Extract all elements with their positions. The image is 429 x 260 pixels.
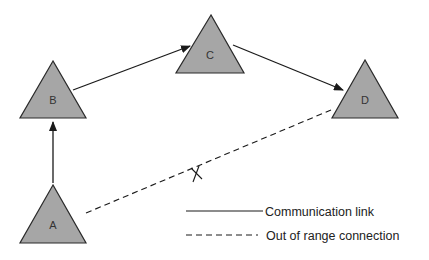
edge-c-to-d [233, 45, 343, 90]
triangle-node-icon [176, 15, 244, 73]
node-label: A [49, 219, 57, 231]
legend-item-out-of-range: Out of range connection [186, 229, 399, 243]
edge-a-to-d-out-of-range [86, 110, 331, 213]
node-a: A [20, 185, 86, 243]
edge-b-to-c [73, 46, 190, 90]
node-label: B [49, 94, 56, 106]
node-label: D [361, 94, 369, 106]
legend-label: Communication link [265, 205, 375, 219]
legend-item-communication-link: Communication link [186, 205, 375, 219]
node-label: C [206, 49, 214, 61]
legend: Communication link Out of range connecti… [186, 205, 399, 243]
node-c: C [176, 15, 244, 73]
triangle-node-icon [20, 185, 86, 243]
network-diagram: A B C D Communication link Out of range … [0, 0, 429, 260]
legend-label: Out of range connection [266, 229, 399, 243]
